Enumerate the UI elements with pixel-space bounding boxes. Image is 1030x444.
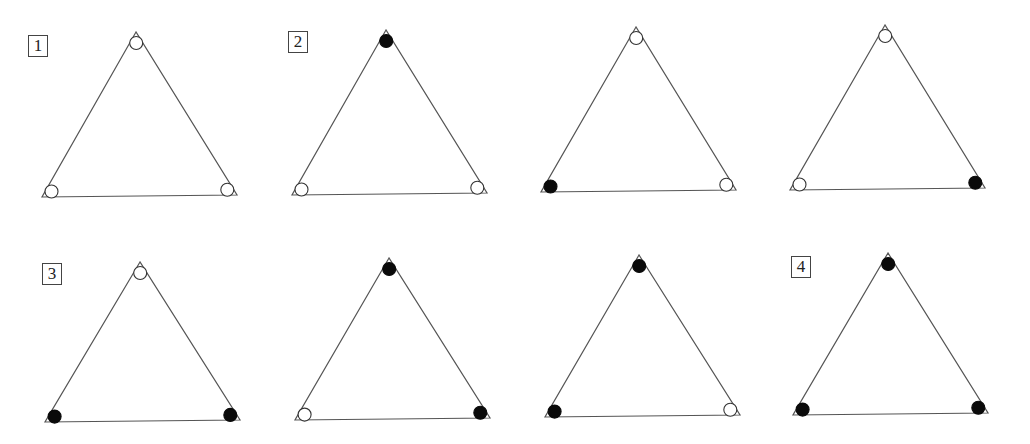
open-circle-icon-bottom-right [471, 181, 484, 194]
open-circle-icon-top [879, 30, 892, 43]
filled-dot-icon-top [882, 258, 895, 271]
panel-label-4: 4 [791, 256, 811, 278]
panel-label-3: 3 [42, 263, 62, 285]
triangle-diagram: 1 2 3 4 [0, 0, 1030, 444]
filled-dot-icon-top [383, 263, 396, 276]
open-circle-icon-bottom-left [793, 178, 806, 191]
triangle-7 [545, 255, 740, 418]
open-circle-icon-top [130, 37, 143, 50]
triangle-outline [292, 30, 487, 195]
triangle-outline [295, 258, 490, 420]
triangle-5 [45, 262, 240, 423]
triangle-1 [42, 32, 237, 198]
triangle-outline [793, 253, 988, 415]
filled-dot-icon-bottom-right [972, 401, 985, 414]
triangle-outline [545, 255, 740, 417]
open-circle-icon-bottom-left [295, 183, 308, 196]
triangle-outline [790, 25, 985, 190]
open-circle-icon-bottom-right [720, 178, 733, 191]
filled-dot-icon-bottom-left [548, 405, 561, 418]
triangle-8 [793, 253, 988, 416]
filled-dot-icon-top [380, 35, 393, 48]
open-circle-icon-bottom-right [724, 403, 737, 416]
open-circle-icon-bottom-left [298, 408, 311, 421]
filled-dot-icon-bottom-right [474, 406, 487, 419]
filled-dot-icon-bottom-right [969, 176, 982, 189]
open-circle-icon-bottom-left [45, 185, 58, 198]
filled-dot-icon-bottom-left [544, 180, 557, 193]
triangles-canvas [0, 0, 1030, 444]
filled-dot-icon-bottom-left [48, 410, 61, 423]
triangle-outline [541, 27, 736, 192]
triangle-4 [790, 25, 985, 191]
triangle-outline [42, 32, 237, 197]
triangle-outline [45, 262, 240, 422]
filled-dot-icon-top [633, 260, 646, 273]
open-circle-icon-bottom-right [221, 183, 234, 196]
open-circle-icon-top [630, 32, 643, 45]
triangle-6 [295, 258, 490, 421]
filled-dot-icon-bottom-right [224, 408, 237, 421]
open-circle-icon-top [134, 267, 147, 280]
triangle-2 [292, 30, 487, 196]
triangle-3 [541, 27, 736, 193]
panel-label-1: 1 [28, 35, 48, 57]
filled-dot-icon-bottom-left [796, 403, 809, 416]
panel-label-2: 2 [288, 31, 308, 53]
